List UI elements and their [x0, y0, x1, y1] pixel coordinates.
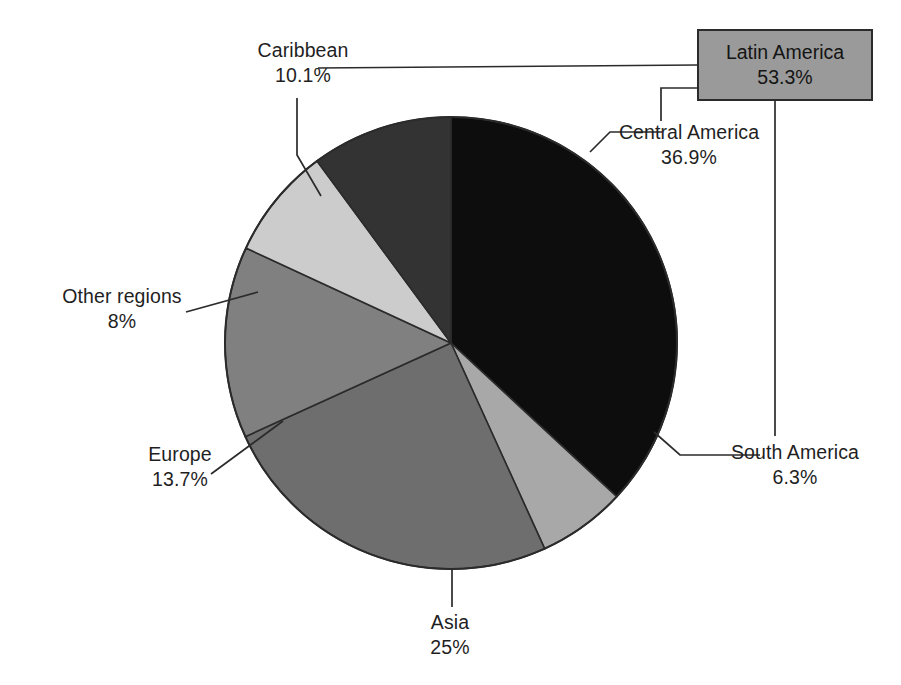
pie-label-europe-name: Europe	[120, 442, 240, 467]
pie-slices	[225, 117, 677, 569]
pie-label-other-regions-value: 8%	[28, 309, 216, 334]
pie-label-caribbean-name: Caribbean	[228, 38, 378, 63]
pie-label-europe: Europe 13.7%	[120, 442, 240, 492]
pie-label-asia-value: 25%	[395, 635, 505, 660]
callout-connector-central-america	[661, 88, 697, 121]
pie-label-south-america: South America 6.3%	[700, 440, 890, 490]
pie-label-asia-name: Asia	[395, 610, 505, 635]
pie-label-other-regions-name: Other regions	[28, 284, 216, 309]
pie-callout-latin-america-name: Latin America	[726, 40, 844, 65]
pie-label-south-america-name: South America	[700, 440, 890, 465]
pie-label-asia: Asia 25%	[395, 610, 505, 660]
pie-callout-latin-america-value: 53.3%	[757, 65, 812, 90]
pie-label-south-america-value: 6.3%	[700, 465, 890, 490]
pie-label-central-america: Central America 36.9%	[584, 120, 794, 170]
pie-label-central-america-name: Central America	[584, 120, 794, 145]
pie-chart-graphic	[0, 0, 901, 685]
pie-label-central-america-value: 36.9%	[584, 145, 794, 170]
pie-chart-figure: Caribbean 10.1% Central America 36.9% So…	[0, 0, 901, 685]
pie-label-caribbean-value: 10.1%	[228, 63, 378, 88]
pie-label-other-regions: Other regions 8%	[28, 284, 216, 334]
pie-callout-latin-america: Latin America 53.3%	[697, 29, 873, 101]
pie-label-caribbean: Caribbean 10.1%	[228, 38, 378, 88]
pie-label-europe-value: 13.7%	[120, 467, 240, 492]
